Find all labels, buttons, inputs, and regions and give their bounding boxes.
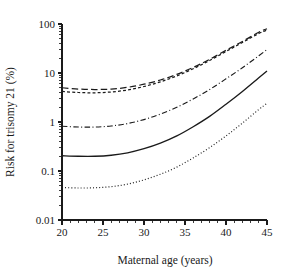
x-tick-label: 45 (262, 226, 274, 238)
tick-labels-group: 1001010.10.01202530354045 (36, 18, 273, 238)
x-tick-label: 25 (98, 226, 110, 238)
y-tick-label: 10 (44, 67, 56, 79)
y-tick-label: 1 (50, 116, 56, 128)
series-line-upper-short-dash (62, 30, 267, 93)
x-axis-title: Maternal age (years) (117, 254, 212, 267)
x-tick-label: 40 (221, 226, 233, 238)
risk-trisomy-chart: 1001010.10.01202530354045 Maternal age (… (0, 0, 281, 277)
axis-spines (62, 24, 267, 220)
series-line-middle-dash-dot (62, 50, 267, 128)
series-line-central-solid (62, 71, 267, 156)
x-tick-label: 30 (139, 226, 151, 238)
y-axis-title: Risk for trisomy 21 (%) (4, 67, 17, 177)
x-tick-label: 20 (57, 226, 69, 238)
figure-container: 1001010.10.01202530354045 Maternal age (… (0, 0, 281, 277)
axes-group (58, 24, 268, 225)
series-line-lower-dotted (62, 103, 267, 188)
series-group (62, 29, 267, 188)
y-tick-label: 0.1 (41, 165, 55, 177)
x-tick-label: 35 (180, 226, 192, 238)
y-tick-label: 100 (39, 18, 56, 30)
y-tick-label: 0.01 (36, 214, 55, 226)
